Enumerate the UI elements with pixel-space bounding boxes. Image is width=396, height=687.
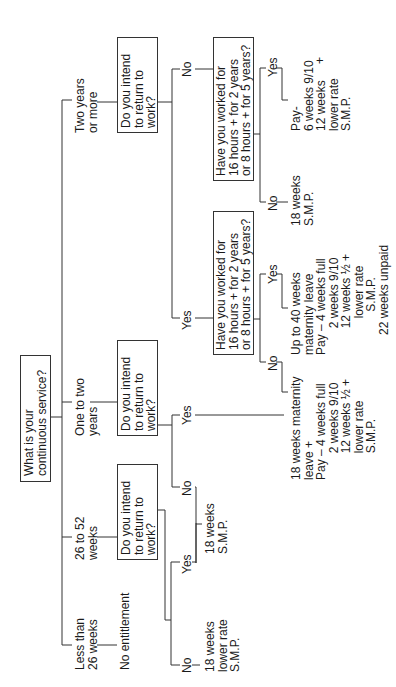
branch-one-to-two-years: One to two years <box>74 378 99 436</box>
mid-hours-yes-label: Yes <box>267 264 280 284</box>
outcome-18-weeks-maternity: 18 weeks maternity leave + Pay – 4 weeks… <box>290 377 378 480</box>
one-two-no-label: No <box>181 481 194 496</box>
branch-less-than-26-weeks: Less than 26 weeks <box>74 618 99 670</box>
weeks-26-52-no-label: No <box>181 658 194 673</box>
outcome-pay-6-weeks: Pay- 6 weeks 9/10 12 weeks lower rate S.… <box>290 60 353 131</box>
weeks-26-52-return-question: Do you intend to return to work? <box>120 481 158 555</box>
mid-hours-no-label: No <box>267 356 280 371</box>
one-two-yes-label: Yes <box>181 405 194 425</box>
outcome-up-to-40-weeks: Up to 40 weeks maternity leave Pay – 4 w… <box>290 245 390 355</box>
outcome-no-entitlement: No entitlement <box>119 593 132 670</box>
top-hours-no-label: No <box>267 196 280 211</box>
two-years-return-question: Do you intend to return to work? <box>120 54 158 128</box>
outcome-18-weeks-smp-top: 18 weeks S.M.P. <box>290 175 315 226</box>
two-years-no-hours-question: Have you worked for 16 hours + for 2 yea… <box>215 45 253 176</box>
two-years-yes-label: Yes <box>181 310 194 330</box>
two-years-no-label: No <box>181 62 194 77</box>
top-hours-yes-label: Yes <box>267 57 280 77</box>
outcome-plus-sign: + <box>314 57 327 64</box>
weeks-26-52-yes-label: Yes <box>181 554 194 574</box>
branch-two-years-or-more: Two years or more <box>74 78 99 133</box>
one-two-return-question: Do you intend to return to work? <box>120 357 158 431</box>
outcome-18-weeks-lower-rate: 18 weeks lower rate S.M.P. <box>204 619 242 672</box>
root-question: What is your continuous service? <box>23 370 48 476</box>
branch-26-to-52-weeks: 26 to 52 weeks <box>74 517 99 560</box>
outcome-18-weeks-smp-mid: 18 weeks S.M.P. <box>204 503 229 554</box>
two-years-yes-hours-question: Have you worked for 16 hours + for 2 yea… <box>215 219 253 350</box>
